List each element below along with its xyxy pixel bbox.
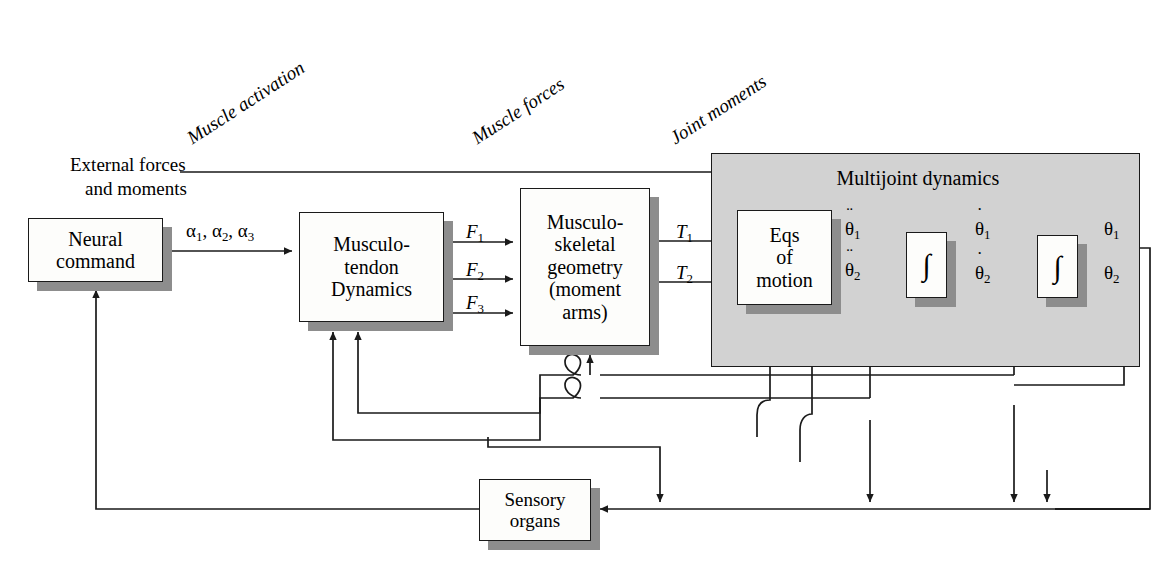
sensory-organs-label: Sensoryorgans <box>504 489 565 532</box>
signal-label-vel-1: θ˙1 <box>975 218 991 243</box>
neural-command[interactable]: Neuralcommand <box>28 218 163 282</box>
signal-label-force-1: F1 <box>466 221 484 246</box>
signal-label-accel-1: θ¨1 <box>845 218 861 243</box>
musculotendon-label: Musculo-tendonDynamics <box>331 233 412 300</box>
signal-label-accel-2: θ¨2 <box>845 259 861 284</box>
msk-geometry[interactable]: Musculo-skeletalgeometry(momentarms) <box>520 188 650 346</box>
eqs-of-motion-label: Eqsofmotion <box>756 224 813 291</box>
signal-label-angle-1: θ1 <box>1104 218 1120 243</box>
integrator-2[interactable]: ∫ <box>1037 235 1078 298</box>
integrator-2-label: ∫ <box>1053 250 1061 284</box>
multijoint-dynamics-label: Multijoint dynamics <box>837 167 1000 190</box>
integrator-1-label: ∫ <box>922 248 930 282</box>
signal-label-alpha-inputs: α1, α2, α3 <box>186 220 254 245</box>
signal-label-torque-1: T1 <box>676 221 693 246</box>
signal-label-external-forces-line2: and moments <box>85 178 187 200</box>
diagram-canvas: Multijoint dynamics NeuralcommandMusculo… <box>0 0 1169 567</box>
sensory-organs[interactable]: Sensoryorgans <box>479 479 591 541</box>
signal-label-external-forces-line1: External forces <box>70 154 186 176</box>
signal-label-angle-2: θ2 <box>1104 262 1120 287</box>
wire-external-forces <box>180 172 784 203</box>
musculotendon[interactable]: Musculo-tendonDynamics <box>299 212 444 322</box>
eqs-of-motion[interactable]: Eqsofmotion <box>737 210 832 305</box>
signal-label-force-2: F2 <box>466 259 484 284</box>
signal-label-force-3: F3 <box>466 292 484 317</box>
neural-command-label: Neuralcommand <box>56 228 135 273</box>
integrator-1[interactable]: ∫ <box>906 232 947 298</box>
signal-label-vel-2: θ˙2 <box>975 262 991 287</box>
msk-geometry-label: Musculo-skeletalgeometry(momentarms) <box>547 211 624 323</box>
signal-label-torque-2: T2 <box>676 262 693 287</box>
